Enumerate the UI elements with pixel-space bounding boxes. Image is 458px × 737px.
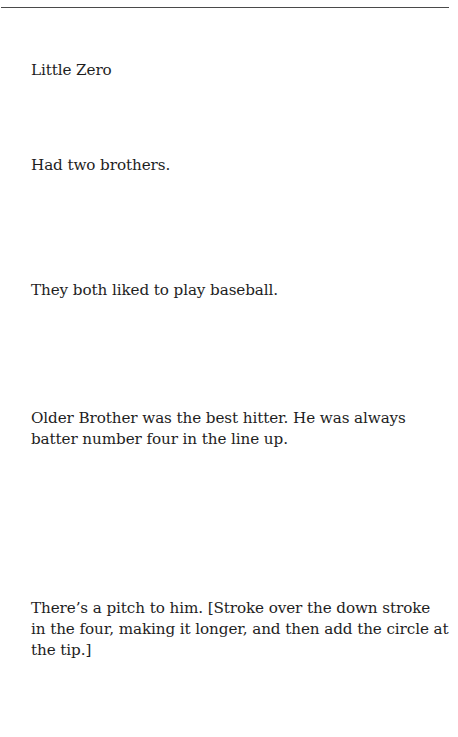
top-rule — [1, 7, 449, 8]
paragraph: Older Brother was the best hitter. He wa… — [31, 408, 449, 450]
paragraph-title: Little Zero — [31, 60, 449, 81]
paragraph: They both liked to play baseball. — [31, 280, 449, 301]
paragraph: There’s a pitch to him. [Stroke over the… — [31, 598, 449, 661]
paragraph: Had two brothers. — [31, 155, 449, 176]
